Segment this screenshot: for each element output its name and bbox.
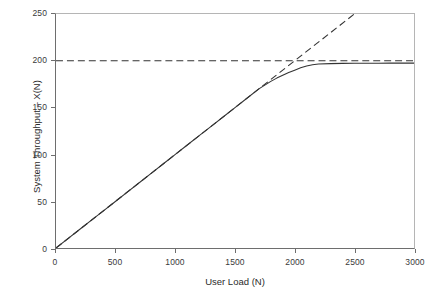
throughput-chart: 050100150200250 050010001500200025003000…: [0, 0, 434, 299]
x-tick-mark: [115, 249, 116, 253]
x-tick-mark: [175, 249, 176, 253]
x-tick-mark: [235, 249, 236, 253]
y-tick-label: 250: [0, 8, 47, 18]
x-tick-label: 1500: [225, 257, 244, 267]
plot-canvas: [56, 14, 414, 248]
series-line: [56, 14, 354, 248]
x-tick-label: 1000: [165, 257, 184, 267]
plot-area: [55, 13, 415, 249]
series-group: [56, 14, 414, 248]
y-axis-title: System Throughput – X(N): [31, 37, 42, 237]
x-tick-mark: [55, 249, 56, 253]
y-tick-label: 0: [0, 244, 47, 254]
x-tick-mark: [295, 249, 296, 253]
series-line: [56, 63, 414, 248]
x-tick-label: 2500: [345, 257, 364, 267]
x-tick-label: 3000: [405, 257, 424, 267]
x-tick-label: 2000: [285, 257, 304, 267]
x-axis-title: User Load (N): [55, 276, 415, 287]
x-tick-mark: [415, 249, 416, 253]
x-tick-mark: [355, 249, 356, 253]
x-tick-label: 0: [53, 257, 58, 267]
x-tick-label: 500: [108, 257, 122, 267]
